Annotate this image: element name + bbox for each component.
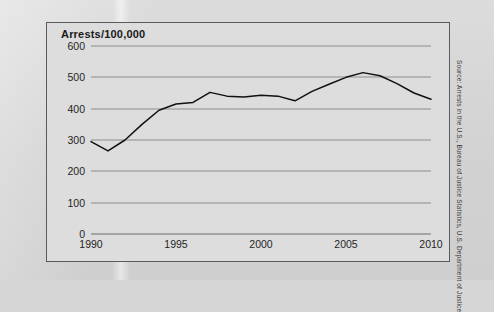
x-tick-label-2000: 2000 [249, 238, 272, 250]
source-note: Source: Arrests in the U.S., Bureau of J… [456, 60, 463, 312]
plot-area: 0100200300400500600 19901995200020052010 [91, 46, 431, 234]
series-line-0 [91, 73, 431, 151]
y-tick-label-100: 100 [67, 197, 85, 209]
y-tick-label-300: 300 [67, 134, 85, 146]
y-tick-label-500: 500 [67, 71, 85, 83]
y-tick-label-400: 400 [67, 103, 85, 115]
chart-figure: Arrests/100,000 0100200300400500600 1990… [46, 22, 450, 262]
chart-title: Arrests/100,000 [61, 28, 145, 40]
series-line-group [91, 46, 431, 234]
x-tick-label-1990: 1990 [79, 238, 102, 250]
x-tick-label-2010: 2010 [419, 238, 442, 250]
x-tick-label-2005: 2005 [334, 238, 357, 250]
y-tick-label-200: 200 [67, 165, 85, 177]
x-tick-label-1995: 1995 [164, 238, 187, 250]
y-tick-label-600: 600 [67, 40, 85, 52]
